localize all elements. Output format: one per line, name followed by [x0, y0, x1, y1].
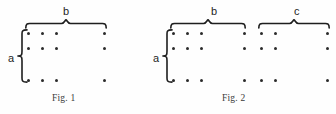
grid-dot	[172, 32, 175, 35]
column-brace	[170, 19, 246, 28]
grid-dot	[326, 47, 329, 50]
grid-dot	[41, 47, 44, 50]
grid-dot	[41, 79, 44, 82]
figure-caption: Fig. 2	[222, 94, 245, 104]
grid-dot	[55, 47, 58, 50]
grid-dot	[103, 47, 106, 50]
grid-dot	[41, 32, 44, 35]
column-dimension-label: b	[211, 6, 217, 17]
grid-dot	[326, 79, 329, 82]
figure-caption: Fig. 1	[52, 94, 75, 104]
grid-dot	[172, 47, 175, 50]
grid-dot	[274, 79, 277, 82]
grid-dot	[27, 32, 30, 35]
column-brace	[258, 19, 330, 28]
figure-canvas: abFig. 1abcFig. 2	[0, 0, 336, 114]
grid-dot	[103, 32, 106, 35]
column-dimension-label: c	[294, 6, 300, 17]
grid-dot	[55, 32, 58, 35]
row-brace	[17, 29, 27, 83]
grid-dot	[274, 47, 277, 50]
grid-dot	[103, 79, 106, 82]
grid-dot	[260, 32, 263, 35]
grid-dot	[260, 47, 263, 50]
column-dimension-label: b	[63, 6, 69, 17]
row-dimension-label: a	[8, 53, 14, 64]
column-brace	[25, 19, 107, 28]
grid-dot	[186, 47, 189, 50]
grid-dot	[243, 79, 246, 82]
grid-dot	[186, 79, 189, 82]
grid-dot	[326, 32, 329, 35]
grid-dot	[243, 47, 246, 50]
grid-dot	[200, 79, 203, 82]
grid-dot	[200, 32, 203, 35]
grid-dot	[27, 47, 30, 50]
row-dimension-label: a	[153, 53, 159, 64]
grid-dot	[186, 32, 189, 35]
grid-dot	[55, 79, 58, 82]
grid-dot	[243, 32, 246, 35]
grid-dot	[260, 79, 263, 82]
grid-dot	[200, 47, 203, 50]
grid-dot	[274, 32, 277, 35]
row-brace	[162, 29, 172, 83]
